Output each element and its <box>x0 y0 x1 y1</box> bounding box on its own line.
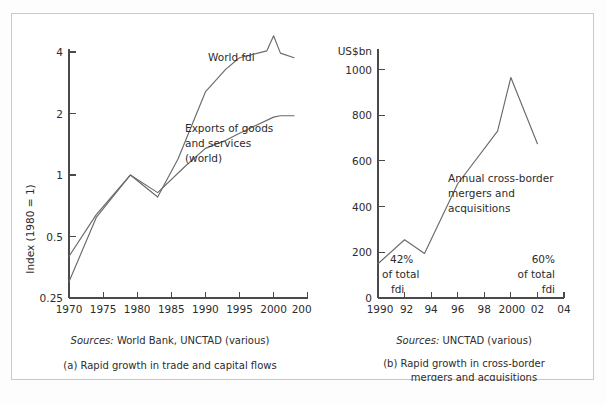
panel-a-ylabel-4: 4 <box>56 46 63 58</box>
panel-a-xlabel-4: 1990 <box>192 303 219 315</box>
panel-b-ylabel-3: 600 <box>352 155 372 167</box>
panel-b-svg: 0 200 400 600 800 1000 US$bn 1990 <box>312 14 595 381</box>
panel-a-source-rest: World Bank, UNCTAD (various) <box>114 335 270 346</box>
panel-b-ylabel-5: 1000 <box>345 64 372 76</box>
panel-b-series-label-1: Annual cross-border <box>448 172 554 184</box>
panel-a-y-axis-title: Index (1980 = 1) <box>24 184 36 273</box>
panel-a-xlabel-6: 2000 <box>260 303 287 315</box>
panel-b-xlabel-2: 94 <box>424 303 438 315</box>
panel-b-xlabel-5: 2000 <box>499 303 526 315</box>
panel-a-xlabel-1: 1975 <box>90 303 117 315</box>
panel-a-series-exports <box>69 116 294 257</box>
panel-b-annot-right-1: 60% <box>532 253 555 265</box>
panel-b-caption-2: mergers and acquisitions <box>411 372 537 381</box>
panel-a-ylabel-2: 1 <box>56 169 63 181</box>
panel-a-source-prefix: Sources: <box>71 335 114 346</box>
panel-a-xlabel-2: 1980 <box>124 303 151 315</box>
chart-panel-b: 0 200 400 600 800 1000 US$bn 1990 <box>312 14 595 381</box>
panel-a-xlabel-7: 2005 <box>292 303 312 315</box>
panel-a-caption: (a) Rapid growth in trade and capital fl… <box>63 360 276 371</box>
panel-b-caption-1: (b) Rapid growth in cross-border <box>383 358 546 369</box>
panel-b-series-label-2: mergers and <box>448 187 515 199</box>
chart-panel-a: 0.25 0.5 1 2 4 Index (1980 = 1) 1970 197… <box>12 14 312 381</box>
panel-a-xlabel-0: 1970 <box>56 303 83 315</box>
panel-b-ylabel-1: 200 <box>352 246 372 258</box>
panel-a-xlabel-5: 1995 <box>226 303 253 315</box>
panel-b-annot-left-2: of total <box>382 268 419 280</box>
panel-b-annot-right-3: fdi <box>542 283 555 295</box>
panel-a-svg: 0.25 0.5 1 2 4 Index (1980 = 1) 1970 197… <box>12 14 312 381</box>
panel-b-xlabel-0: 1990 <box>367 303 394 315</box>
panel-b-ylabel-2: 400 <box>352 201 372 213</box>
panel-a-series-world-fdi <box>69 36 294 282</box>
panel-b-ylabel-4: 800 <box>352 109 372 121</box>
panel-a-label-exports-3: (world) <box>185 152 222 164</box>
panel-b-annot-left-3: fdi <box>391 283 404 295</box>
panel-b-source-prefix: Sources: <box>396 335 439 346</box>
panel-b-xlabel-1: 92 <box>400 303 413 315</box>
panel-b-annot-left-1: 42% <box>390 253 413 265</box>
panel-a-label-world-fdi: World fdi <box>208 51 255 63</box>
panel-b-series-label-3: acquisitions <box>448 202 510 214</box>
panel-a-source-note: Sources: World Bank, UNCTAD (various) <box>71 335 270 346</box>
figure-root: 0.25 0.5 1 2 4 Index (1980 = 1) 1970 197… <box>0 0 606 404</box>
panel-b-source-note: Sources: UNCTAD (various) <box>396 335 532 346</box>
panel-b-series-ma <box>378 78 537 264</box>
panel-a-label-exports-1: Exports of goods <box>185 122 273 134</box>
panel-a-ylabel-1: 0.5 <box>46 231 63 243</box>
panel-a-xlabel-3: 1985 <box>158 303 185 315</box>
panel-b-xlabel-4: 98 <box>478 303 491 315</box>
panel-a-label-exports-2: and services <box>185 137 251 149</box>
panel-b-source-rest: UNCTAD (various) <box>439 335 532 346</box>
panel-a-ylabel-3: 2 <box>56 108 63 120</box>
panel-b-unit-label: US$bn <box>338 45 372 57</box>
panel-b-annot-right-2: of total <box>518 268 555 280</box>
panel-b-xlabel-6: 02 <box>531 303 544 315</box>
panel-b-xlabel-7: 04 <box>557 303 571 315</box>
figure-frame: 0.25 0.5 1 2 4 Index (1980 = 1) 1970 197… <box>11 13 594 380</box>
panel-b-xlabel-3: 96 <box>451 303 465 315</box>
